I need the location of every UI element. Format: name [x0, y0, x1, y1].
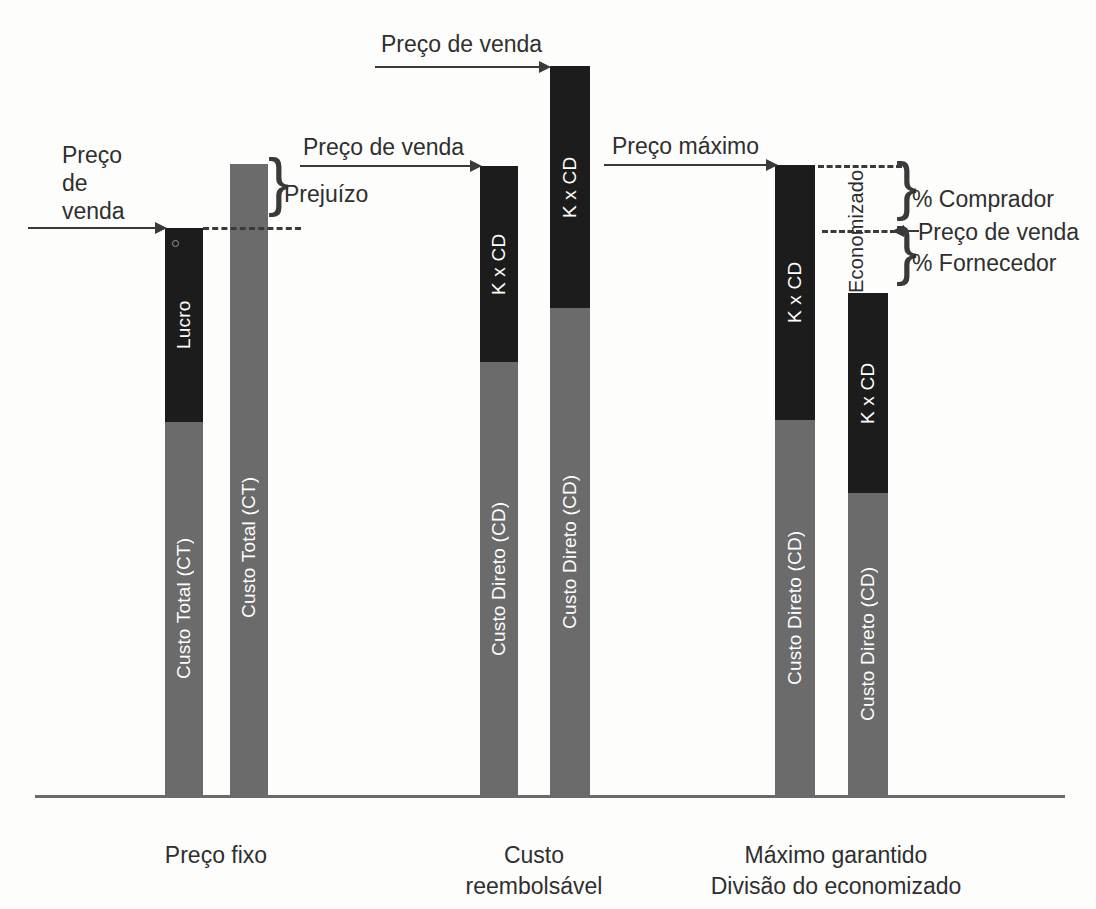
label-preco-de-venda-right: Preço de venda	[918, 219, 1079, 246]
category-label-maximo-garantido: Máximo garantido Divisão do economizado	[676, 840, 996, 902]
label-preco-de-venda-mid: Preço de venda	[303, 134, 464, 161]
baseline-axis	[35, 795, 1065, 798]
contract-pricing-diagram: Lucro Custo Total (CT) Custo Total (CT) …	[0, 0, 1096, 909]
bar-2-bottom-label: Custo Total (CT)	[230, 300, 268, 795]
dashed-line-preco-venda-left	[203, 227, 301, 230]
category-label-custo-reembolsavel: Custo reembolsável	[404, 840, 664, 902]
arrow-preco-de-venda-mid-head-icon	[470, 160, 482, 172]
arrow-preco-de-venda-top	[375, 66, 543, 68]
bar-6-bottom-label: Custo Direto (CD)	[848, 493, 888, 795]
bar-1-bottom-label: Custo Total (CT)	[165, 422, 203, 795]
bar-1-top-label: Lucro	[165, 228, 203, 422]
label-percent-comprador: % Comprador	[912, 186, 1054, 213]
category-custo-reembolsavel-line2: reembolsável	[404, 871, 664, 902]
bar-3-top-label: K x CD	[480, 166, 518, 362]
bar-5-top-label: K x CD	[775, 165, 815, 420]
arrow-preco-de-venda-top-head-icon	[539, 61, 551, 73]
category-preco-fixo-line1: Preço fixo	[116, 840, 316, 871]
label-preco-maximo: Preço máximo	[612, 133, 759, 160]
category-maximo-garantido-line2: Divisão do economizado	[676, 871, 996, 902]
label-preco-de-venda-top: Preço de venda	[381, 31, 542, 58]
label-preco-de-venda-left-line3: venda	[62, 198, 125, 225]
bar-4-bottom-label: Custo Direto (CD)	[550, 308, 590, 795]
category-label-preco-fixo: Preço fixo	[116, 840, 316, 871]
label-economizado: Economizado	[838, 168, 874, 294]
arrow-preco-maximo-head-icon	[766, 159, 778, 171]
bar-6-top-label: K x CD	[848, 293, 888, 493]
label-prejuizo: Prejuízo	[284, 181, 368, 208]
bar-3-bottom-label: Custo Direto (CD)	[480, 362, 518, 795]
bar-4-top-label: K x CD	[550, 66, 590, 308]
label-preco-de-venda-left-line2: de	[62, 170, 88, 197]
arrow-preco-de-venda-left	[28, 227, 158, 229]
label-preco-de-venda-left-line1: Preço	[62, 142, 122, 169]
arrow-preco-de-venda-mid	[300, 165, 474, 167]
category-custo-reembolsavel-line1: Custo	[404, 840, 664, 871]
category-maximo-garantido-line1: Máximo garantido	[676, 840, 996, 871]
arrow-preco-de-venda-left-head-icon	[155, 222, 167, 234]
arrow-preco-maximo	[604, 164, 770, 166]
label-percent-fornecedor: % Fornecedor	[912, 250, 1056, 277]
bar-5-bottom-label: Custo Direto (CD)	[775, 420, 815, 795]
